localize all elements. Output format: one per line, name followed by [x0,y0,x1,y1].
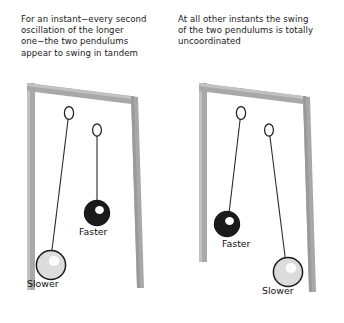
right-faster-label: Faster [222,238,250,249]
right-pendulum-diagram [0,0,344,323]
right-slower-label: Slower [262,285,294,296]
left-faster-label: Faster [79,226,107,237]
left-slower-label: Slower [27,278,59,289]
right-faster-string [228,112,241,222]
right-slower-ball-highlight [286,263,297,273]
right-slower-ring-icon [265,124,274,136]
right-faster-ring-icon [236,107,245,120]
right-faster-ball-highlight [225,217,234,225]
pendulum-figure: For an instant−every second oscillation … [0,0,344,323]
right-slower-string [269,129,287,272]
right-frame-post-left-highlight [199,83,202,262]
